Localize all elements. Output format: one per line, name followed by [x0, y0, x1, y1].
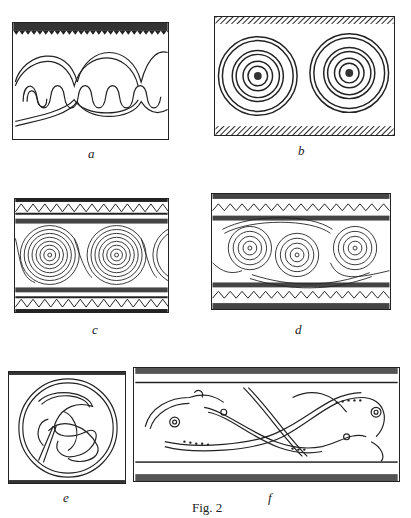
panel-c-label: c	[92, 322, 98, 338]
panel-f-label: f	[268, 490, 272, 506]
panel-c	[14, 198, 169, 313]
panel-e	[8, 371, 126, 484]
panel-d-label: d	[295, 322, 302, 338]
beast-frieze-illustration	[134, 368, 399, 481]
double-spiral-illustration	[212, 194, 390, 309]
panel-a-label: a	[88, 146, 95, 162]
panel-e-label: e	[63, 490, 69, 506]
concentric-circles-illustration	[215, 17, 394, 135]
panel-b-label: b	[298, 143, 305, 159]
panel-f	[133, 367, 400, 482]
wave-pattern-illustration	[13, 23, 168, 139]
panel-d	[211, 193, 391, 310]
panel-b	[214, 16, 395, 136]
beast-roundel-illustration	[9, 372, 125, 483]
figure-caption: Fig. 2	[192, 500, 222, 516]
panel-a	[12, 22, 169, 140]
running-spiral-illustration	[15, 199, 168, 312]
